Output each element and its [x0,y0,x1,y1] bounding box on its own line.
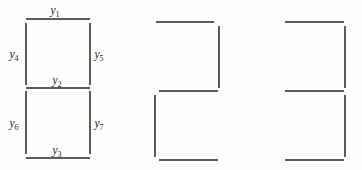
label-y4-subscript: 4 [15,54,19,63]
panel-right-right [285,22,345,160]
label-y1-subscript: 1 [56,10,60,19]
panel-right-left [155,22,219,160]
figure-canvas: y1y2y3y4y5y6y7 [0,0,362,170]
label-y5: y5 [93,48,103,63]
label-y3-subscript: 3 [58,150,62,159]
label-y1: y1 [49,4,59,19]
panel-labeled: y1y2y3y4y5y6y7 [8,4,103,159]
label-y5-subscript: 5 [100,54,104,63]
label-y7: y7 [93,117,103,132]
label-y7-subscript: 7 [100,123,104,132]
diagram-svg: y1y2y3y4y5y6y7 [0,0,362,170]
label-y3: y3 [51,144,61,159]
label-y2-subscript: 2 [58,80,62,89]
label-y6-subscript: 6 [15,123,19,132]
label-y4: y4 [8,48,18,63]
label-y2: y2 [51,74,61,89]
label-y6: y6 [8,117,18,132]
